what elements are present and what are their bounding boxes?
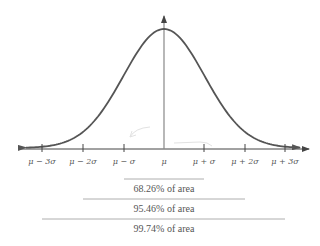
tick-label: μ − σ [113, 157, 136, 166]
tick-label: μ + σ [193, 157, 216, 166]
area-brackets: 68.26% of area 95.46% of area 99.74% of … [42, 179, 285, 234]
normal-distribution-diagram: μ − 3σμ − 2σμ − σμμ + σμ + 2σμ + 3σ 68.2… [0, 0, 320, 246]
tick-label: μ + 2σ [231, 157, 259, 166]
tick-label: μ + 3σ [271, 157, 299, 166]
area-label-2-sigma: 95.46% of area [134, 203, 195, 214]
area-label-1-sigma: 68.26% of area [134, 183, 195, 194]
tick-label: μ [161, 157, 166, 166]
bell-curve [26, 29, 300, 148]
tick-label: μ − 3σ [28, 157, 56, 166]
faint-arrow-marks [130, 127, 212, 146]
tick-label: μ − 2σ [69, 157, 97, 166]
area-label-3-sigma: 99.74% of area [134, 223, 195, 234]
